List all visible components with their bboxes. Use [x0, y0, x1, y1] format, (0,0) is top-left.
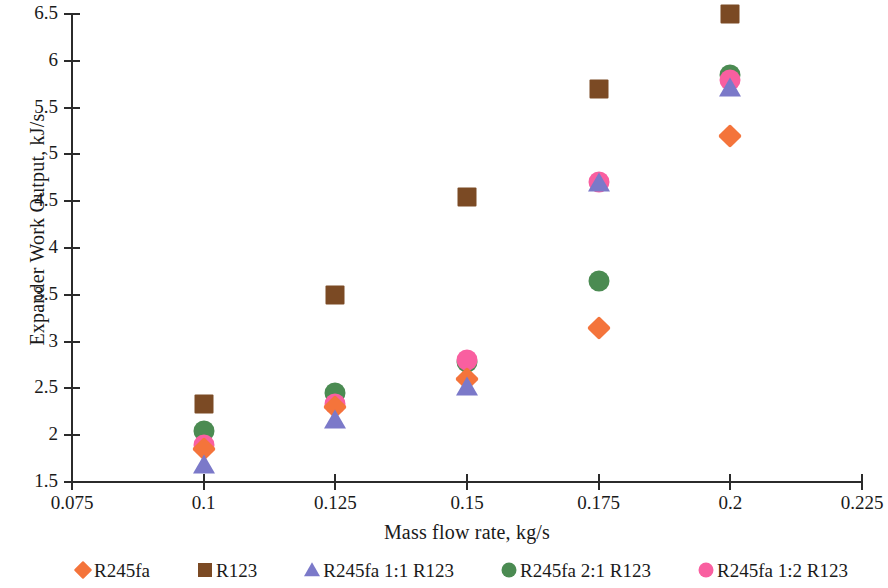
- y-tick-label: 5.5: [0, 96, 58, 118]
- data-point: [326, 285, 345, 304]
- y-tick-label: 6: [0, 49, 58, 71]
- data-point: [588, 270, 609, 291]
- data-point: [458, 187, 477, 206]
- x-tick-label: 0.225: [817, 492, 888, 514]
- legend-label: R245fa 2:1 R123: [520, 561, 651, 580]
- y-tick-label: 2.5: [0, 376, 58, 398]
- legend-item-r245fa-1-1-r123[interactable]: R245fa 1:1 R123: [303, 561, 454, 580]
- data-point: [589, 79, 608, 98]
- chart-legend: R245faR123R245fa 1:1 R123R245fa 2:1 R123…: [0, 552, 882, 588]
- data-point: [456, 377, 478, 396]
- diamond-marker-icon: [74, 562, 91, 579]
- legend-label: R245fa 1:2 R123: [717, 561, 848, 580]
- data-point: [718, 124, 742, 148]
- data-point: [721, 5, 740, 24]
- circle-marker-icon: [500, 562, 517, 579]
- data-point: [588, 173, 610, 192]
- x-tick-label: 0.2: [685, 492, 775, 514]
- y-tick-label: 4.5: [0, 189, 58, 211]
- legend-item-r245fa-1-2-r123[interactable]: R245fa 1:2 R123: [697, 561, 848, 580]
- triangle-marker-icon: [303, 562, 320, 579]
- x-axis-title: Mass flow rate, kg/s: [72, 521, 862, 544]
- x-tick-label: 0.075: [27, 492, 117, 514]
- legend-item-r123[interactable]: R123: [196, 561, 257, 580]
- data-point: [587, 316, 611, 340]
- legend-label: R245fa 1:1 R123: [323, 561, 454, 580]
- legend-item-r245fa[interactable]: R245fa: [74, 561, 150, 580]
- x-tick-label: 0.1: [159, 492, 249, 514]
- legend-item-r245fa-2-1-r123[interactable]: R245fa 2:1 R123: [500, 561, 651, 580]
- y-tick-label: 3.5: [0, 283, 58, 305]
- y-tick-label: 6.5: [0, 2, 58, 24]
- y-tick-label: 3: [0, 330, 58, 352]
- x-tick-label: 0.175: [554, 492, 644, 514]
- y-tick-label: 5: [0, 142, 58, 164]
- plot-area: [72, 14, 862, 482]
- x-tick-label: 0.125: [290, 492, 380, 514]
- y-tick-label: 2: [0, 423, 58, 445]
- y-tick-label: 4: [0, 236, 58, 258]
- data-point: [194, 395, 213, 414]
- x-tick-label: 0.15: [422, 492, 512, 514]
- square-marker-icon: [196, 562, 213, 579]
- data-point: [719, 77, 741, 96]
- data-point: [324, 410, 346, 429]
- legend-label: R245fa: [94, 561, 150, 580]
- circle-marker-icon: [697, 562, 714, 579]
- y-tick-label: 1.5: [0, 470, 58, 492]
- legend-label: R123: [216, 561, 257, 580]
- data-point: [193, 455, 215, 474]
